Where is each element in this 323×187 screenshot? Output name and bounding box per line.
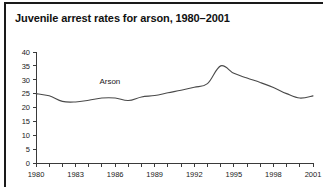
x-tick-label: 1980 (28, 170, 45, 179)
x-tick-label: 1983 (67, 170, 84, 179)
data-series-group (36, 66, 313, 103)
x-tick-label: 1995 (226, 170, 243, 179)
chart-svg: 0510152025303540 19801983198619891992199… (0, 0, 323, 187)
chart-figure: Juvenile arrest rates for arson, 1980–20… (0, 0, 323, 187)
y-tick-label: 40 (22, 48, 30, 57)
y-tick-label: 25 (22, 89, 30, 98)
y-tick-label: 0 (26, 159, 30, 168)
y-tick-label: 35 (22, 62, 30, 71)
y-tick-label: 10 (22, 131, 30, 140)
y-tick-label: 20 (22, 103, 30, 112)
y-axis: 0510152025303540 (22, 48, 36, 168)
y-tick-label: 5 (26, 145, 30, 154)
x-tick-label: 1986 (107, 170, 124, 179)
series-annotation-arson: Arson (99, 77, 120, 86)
data-line-arson (36, 66, 313, 103)
x-tick-label: 1992 (186, 170, 203, 179)
series-annotation-group: Arson (99, 77, 120, 86)
x-tick-label: 1989 (146, 170, 163, 179)
x-tick-label: 2001 (305, 170, 322, 179)
y-tick-label: 15 (22, 117, 30, 126)
y-tick-label: 30 (22, 76, 30, 85)
plot-area: 0510152025303540 19801983198619891992199… (0, 0, 323, 187)
x-axis: 19801983198619891992199519982001 (28, 163, 322, 179)
x-tick-label: 1998 (265, 170, 282, 179)
